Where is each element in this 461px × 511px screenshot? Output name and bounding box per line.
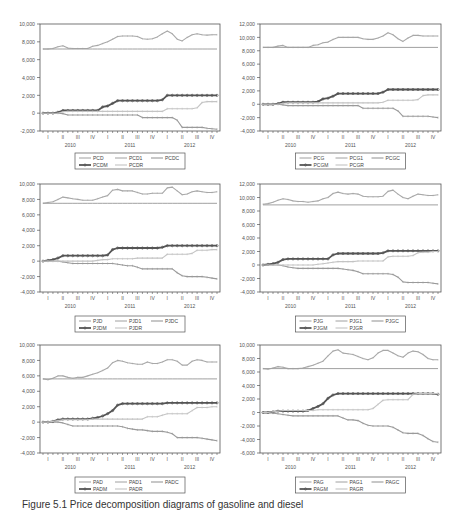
y-tick-label: 8,000 bbox=[242, 208, 255, 214]
y-tick-label: 10,000 bbox=[19, 342, 35, 348]
y-tick-label: 10,000 bbox=[19, 21, 35, 27]
chart-panel-pad: -4,000-2,00002,0004,0006,0008,00010,000I… bbox=[0, 335, 230, 495]
series-line-pcg bbox=[263, 33, 438, 48]
chart-pjg: -4,000-2,00002,0004,0006,0008,00010,0001… bbox=[230, 170, 461, 335]
x-quarter-label: IV bbox=[90, 295, 95, 301]
x-quarter-label: II bbox=[61, 456, 64, 462]
y-tick-label: 4,000 bbox=[22, 227, 35, 233]
y-tick-label: -4,000 bbox=[20, 450, 35, 456]
y-tick-label: 2,000 bbox=[242, 249, 255, 255]
chart-pag: -6,000-4,000-2,00002,0004,0006,0008,0001… bbox=[230, 335, 461, 495]
y-tick-label: -2,000 bbox=[20, 435, 35, 441]
x-axis: IIIIIIIVIIIIIIIVIIIIIIIV201020112012 bbox=[263, 292, 438, 309]
y-tick-label: 0 bbox=[32, 258, 35, 264]
x-quarter-label: I bbox=[107, 295, 108, 301]
x-quarter-label: IV bbox=[90, 456, 95, 462]
legend: PADPAD1PADCPADMPADR bbox=[75, 477, 185, 493]
x-quarter-label: III bbox=[135, 295, 139, 301]
legend-label: PADR bbox=[129, 486, 143, 492]
series-line-pagc bbox=[263, 413, 438, 443]
chart-panel-pag: -6,000-4,000-2,00002,0004,0006,0008,0001… bbox=[230, 335, 461, 495]
x-quarter-label: III bbox=[76, 456, 80, 462]
y-tick-label: -6,000 bbox=[240, 450, 255, 456]
legend-label: PJDR bbox=[129, 325, 142, 331]
y-tick-label: 4,000 bbox=[22, 75, 35, 81]
series-group bbox=[262, 32, 439, 119]
x-quarter-label: II bbox=[181, 295, 184, 301]
x-year-label: 2011 bbox=[345, 142, 356, 148]
y-tick-label: 8,000 bbox=[22, 197, 35, 203]
y-tick-label: -4,000 bbox=[240, 128, 255, 134]
x-quarter-label: I bbox=[167, 295, 168, 301]
series-line-pjgm bbox=[263, 251, 438, 265]
legend-label: PJDC bbox=[165, 318, 178, 324]
x-quarter-label: I bbox=[387, 295, 388, 301]
series-group bbox=[42, 30, 218, 130]
y-tick-label: 4,000 bbox=[242, 383, 255, 389]
y-tick-label: 10,000 bbox=[19, 181, 35, 187]
chart-panel-pjd: -4,000-2,00002,0004,0006,0008,00010,000I… bbox=[0, 170, 230, 335]
y-tick-label: 4,000 bbox=[242, 75, 255, 81]
x-quarter-label: I bbox=[47, 295, 48, 301]
y-tick-label: 4,000 bbox=[242, 235, 255, 241]
x-quarter-label: I bbox=[387, 456, 388, 462]
legend: PJDPJD1PJDCPJDMPJDR bbox=[75, 316, 185, 332]
x-quarter-label: II bbox=[121, 456, 124, 462]
x-quarter-label: I bbox=[107, 456, 108, 462]
x-quarter-label: II bbox=[342, 456, 345, 462]
legend-label: PCGC bbox=[386, 155, 401, 161]
x-quarter-label: III bbox=[356, 456, 360, 462]
x-axis: IIIIIIIVIIIIIIIVIIIIIIIV201020112012 bbox=[263, 131, 438, 148]
x-quarter-label: I bbox=[327, 456, 328, 462]
legend-label: PJG1 bbox=[350, 318, 363, 324]
y-tick-label: 12,000 bbox=[239, 21, 255, 27]
series-line-pad bbox=[43, 360, 217, 380]
x-axis: IIIIIIIVIIIIIIIVIIIIIIIV201020112012 bbox=[43, 131, 217, 148]
plot-frame bbox=[260, 24, 441, 131]
chart-pcd: -2,00002,0004,0006,0008,00010,000IIIIIII… bbox=[0, 0, 230, 170]
legend-label: PJGC bbox=[386, 318, 400, 324]
x-quarter-label: III bbox=[416, 295, 420, 301]
x-quarter-label: I bbox=[167, 134, 168, 140]
y-axis: -6,000-4,000-2,00002,0004,0006,0008,0001… bbox=[239, 342, 260, 456]
x-quarter-label: IV bbox=[431, 134, 436, 140]
x-quarter-label: III bbox=[195, 456, 199, 462]
chart-pad: -4,000-2,00002,0004,0006,0008,00010,000I… bbox=[0, 335, 230, 495]
legend: PCDPCD1PCDCPCDMPCDR bbox=[75, 153, 185, 169]
legend-label: PCD bbox=[93, 155, 104, 161]
y-tick-label: 10,000 bbox=[239, 35, 255, 41]
legend: PCGPCG1PCGCPCGMPCGR bbox=[296, 153, 406, 169]
x-quarter-label: II bbox=[342, 134, 345, 140]
series-line-padr bbox=[43, 407, 217, 422]
x-quarter-label: I bbox=[267, 456, 268, 462]
y-axis: -4,000-2,00002,0004,0006,0008,00010,000 bbox=[19, 342, 40, 456]
series-line-pjdc bbox=[43, 261, 217, 279]
series-line-pcdr bbox=[43, 102, 217, 114]
y-axis: -4,000-2,00002,0004,0006,0008,00010,000 bbox=[19, 181, 40, 295]
x-year-label: 2010 bbox=[285, 303, 296, 309]
y-tick-label: -2,000 bbox=[240, 423, 255, 429]
series-line-padc bbox=[43, 422, 217, 441]
legend-label: PCG1 bbox=[350, 155, 364, 161]
series-line-pjd bbox=[43, 187, 217, 203]
x-quarter-label: IV bbox=[431, 456, 436, 462]
chart-pjd: -4,000-2,00002,0004,0006,0008,00010,000I… bbox=[0, 170, 230, 335]
x-quarter-label: II bbox=[282, 134, 285, 140]
x-quarter-label: II bbox=[121, 295, 124, 301]
series-group bbox=[42, 359, 218, 442]
y-axis: -4,000-2,00002,0004,0006,0008,00010,0001… bbox=[239, 21, 260, 134]
y-axis: -4,000-2,00002,0004,0006,0008,00010,0001… bbox=[239, 181, 260, 295]
x-quarter-label: II bbox=[282, 456, 285, 462]
x-quarter-label: II bbox=[121, 134, 124, 140]
legend-label: PADC bbox=[165, 479, 179, 485]
chart-panel-pjg: -4,000-2,00002,0004,0006,0008,00010,0001… bbox=[230, 170, 461, 335]
x-quarter-label: IV bbox=[210, 295, 215, 301]
series-line-pcgc bbox=[263, 104, 438, 117]
x-year-label: 2010 bbox=[285, 142, 296, 148]
y-tick-label: 6,000 bbox=[22, 373, 35, 379]
x-quarter-label: I bbox=[327, 134, 328, 140]
legend-label: PJGR bbox=[350, 325, 364, 331]
x-quarter-label: III bbox=[296, 456, 300, 462]
x-quarter-label: IV bbox=[371, 456, 376, 462]
x-quarter-label: IV bbox=[371, 134, 376, 140]
